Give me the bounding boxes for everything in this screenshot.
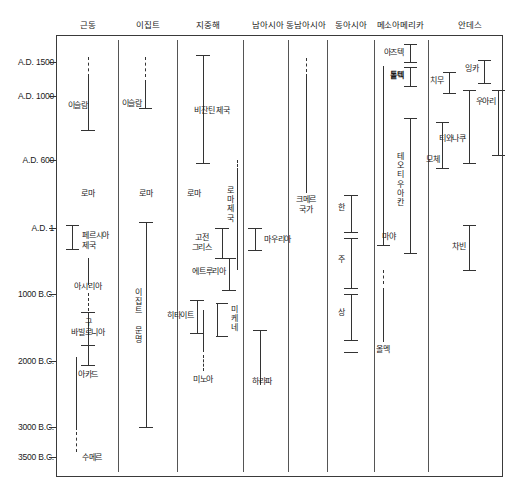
event-label-wari: 우아리 (476, 97, 496, 107)
timeline-bar-minoan-dashed (203, 355, 204, 371)
timeline-cap (190, 333, 204, 334)
timeline-cap (443, 93, 456, 94)
event-label-roma: 로마 (81, 189, 95, 199)
timeline-bar-wari (498, 90, 499, 155)
event-label-old-babylonia: 구 바빌로니아 (71, 318, 105, 337)
event-label-hittite: 히타이트 (167, 311, 194, 321)
timeline-bar-assyria-dashed (88, 293, 89, 311)
timeline-cap (216, 336, 228, 337)
event-label-islam: 이슬람 (122, 99, 142, 109)
plot-area: 이슬람 로마 페르시아 제국 아시리아 구 바빌로니아 아카드 수메르 이슬람 … (0, 0, 520, 498)
event-label-egyptian-civilization: 이집트 문명 (133, 288, 143, 344)
timeline-bar-islam (145, 80, 146, 108)
timeline-bar-hittite (197, 300, 198, 333)
timeline-bar-toltec (410, 67, 411, 86)
timeline-bar-han (351, 195, 352, 232)
event-label-khmer: 크메르 국가 (296, 195, 316, 214)
event-label-assyria: 아시리아 (74, 282, 101, 292)
timeline-bar-khmer-dashed (306, 58, 307, 72)
timeline-cap (344, 232, 358, 233)
event-label-aztec: 아즈텍 (384, 48, 404, 58)
event-label-maurya: 마우리아 (264, 235, 291, 245)
event-label-sumer: 수메르 (82, 453, 102, 463)
timeline-bar-islam-dashed (145, 57, 146, 77)
event-label-harappa: 하라파 (252, 377, 272, 387)
timeline-bar-islam (88, 77, 89, 130)
timeline-bar-maya (383, 66, 384, 245)
event-label-akkad: 아카드 (78, 370, 98, 380)
timeline-cap (404, 253, 417, 254)
timeline-cap (248, 250, 262, 251)
event-label-minoan: 미노아 (193, 375, 213, 385)
column-divider (118, 40, 119, 472)
timeline-cap (404, 62, 417, 63)
event-label-roma: 로마 (187, 189, 201, 199)
timeline-bar-etruria (229, 258, 230, 290)
timeline-bar-akkad (88, 345, 89, 365)
timeline-cap (66, 249, 79, 250)
event-label-mycenae: 미케네 (229, 305, 239, 333)
event-label-roman-empire: 로마제국 (225, 186, 235, 223)
timeline-bar-chavin (469, 225, 470, 270)
timeline-bar-egyptian-civilization (146, 222, 147, 427)
column-divider (327, 40, 328, 472)
timeline-bar-sumer-dashed (76, 432, 77, 452)
event-label-chavin: 차빈 (452, 242, 466, 252)
timeline-bar-chimu (449, 72, 450, 93)
column-divider (243, 40, 244, 472)
timeline-bar-teotihuacan (410, 118, 411, 253)
column-divider (288, 40, 289, 472)
timeline-bar-assyria (88, 258, 89, 285)
timeline-chart: 근동 이집트 지중해 남아시아 동남아시아 동아시아 메소아메리카 안데스 A.… (0, 0, 520, 498)
timeline-cap (478, 83, 491, 84)
timeline-cap (344, 352, 358, 353)
timeline-cap (344, 340, 358, 341)
timeline-bar-roman-empire-dashed (237, 160, 238, 171)
timeline-bar-mycenae (217, 303, 218, 336)
event-label-moche: 모체 (426, 155, 440, 165)
timeline-cap (222, 290, 236, 291)
timeline-bar-minoan (203, 310, 204, 352)
event-label-zhou: 주 (336, 255, 346, 264)
timeline-bar-sumer (76, 357, 77, 430)
timeline-bar-olmec (383, 288, 384, 342)
event-label-olmec: 올멕 (376, 345, 390, 355)
timeline-cap (377, 245, 390, 246)
event-label-islam: 이슬람 (68, 101, 88, 111)
timeline-bar-aztec (410, 44, 411, 62)
event-label-maya: 마야 (382, 232, 396, 242)
timeline-bar-khmer (306, 74, 307, 193)
timeline-cap (81, 130, 95, 131)
timeline-cap (81, 365, 95, 366)
timeline-bar-classical-greece (222, 228, 223, 258)
event-label-chimu: 치무 (430, 76, 444, 86)
column-divider (177, 40, 178, 472)
timeline-bar-maurya (255, 228, 256, 250)
event-label-classical-greece: 고전 그리스 (192, 233, 212, 252)
timeline-bar-roman-empire (237, 171, 238, 270)
timeline-cap (463, 270, 476, 271)
event-label-etruria: 에트루리아 (192, 267, 226, 277)
timeline-bar-tiwanaku (469, 90, 470, 163)
timeline-cap (404, 86, 417, 87)
event-label-roma: 로마 (139, 189, 153, 199)
timeline-cap (344, 288, 358, 289)
timeline-bar-islam-dashed (88, 57, 89, 77)
timeline-cap (139, 427, 153, 428)
timeline-bar-shang (351, 294, 352, 340)
timeline-cap (463, 163, 476, 164)
event-label-byzantine: 비잔틴 제국 (194, 106, 230, 116)
event-label-han: 한 (336, 203, 346, 212)
timeline-bar-moche (442, 122, 443, 168)
event-label-persia: 페르시아 제국 (82, 231, 109, 250)
event-label-toltec: 톨텍 (390, 71, 404, 81)
event-label-shang: 상 (336, 308, 346, 317)
timeline-bar-inca (484, 60, 485, 83)
timeline-cap (492, 155, 505, 156)
timeline-bar-persia (72, 225, 73, 249)
column-divider (374, 40, 375, 472)
timeline-bar-olmec-dashed (383, 270, 384, 284)
timeline-cap (196, 163, 210, 164)
event-label-inca: 잉카 (465, 64, 479, 74)
column-divider (428, 40, 429, 472)
